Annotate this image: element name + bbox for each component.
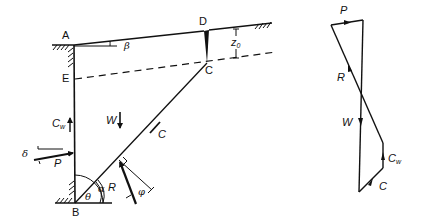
polygon-label-C: C [379,180,387,192]
label-z0: z0 [230,36,241,49]
label-B: B [72,206,79,218]
polygon-label-P: P [340,4,348,16]
crack-depth-line [75,52,276,79]
wedge-diagram: A E D C B β z0 W C Cw δ P α θ R φ P R [0,0,422,223]
label-A: A [62,29,70,41]
right-angle-mark [123,157,127,165]
slip-plane-BC [75,63,207,203]
label-C-force: C [158,128,166,140]
wedge-geometry [52,22,276,203]
label-W: W [106,114,118,126]
label-P: P [54,157,62,169]
polygon-label-R: R [337,71,345,83]
label-C-point: C [205,64,213,76]
wall-AB [74,45,75,203]
polygon-W-line [359,20,363,192]
tension-crack-DC [204,30,209,63]
polygon-label-Cw: Cw [388,152,402,165]
polygon-label-W: W [342,116,354,128]
label-alpha: α [98,183,105,194]
ground-surface-AD [74,31,204,45]
label-E: E [62,72,69,84]
force-polygon [331,20,385,192]
label-phi: φ [138,186,145,197]
polygon-R-line [331,25,383,143]
wall-hatching-upper [68,48,73,67]
label-Cw: Cw [52,117,66,130]
label-D: D [199,15,207,27]
label-R: R [108,181,116,193]
label-theta: θ [85,191,91,202]
polygon-labels: P R W Cw C [337,4,402,192]
label-beta: β [123,40,130,51]
label-delta: δ [22,148,28,159]
wall-hatching-lower [69,181,74,195]
